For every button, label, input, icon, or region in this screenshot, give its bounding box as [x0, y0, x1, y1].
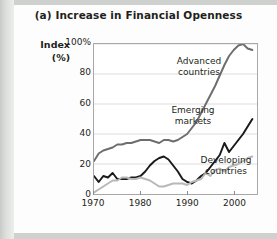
- x-axis-tickmark: [187, 191, 188, 195]
- y-axis-tick: 60: [51, 98, 91, 108]
- y-axis-tick: 100%: [51, 37, 91, 47]
- annotation-developing-line1: Developing: [193, 155, 259, 166]
- annotation-developing: Developing countries: [193, 155, 259, 176]
- annotation-advanced-line2: countries: [168, 67, 230, 78]
- y-axis-tick: 20: [51, 159, 91, 169]
- annotation-advanced: Advanced countries: [168, 56, 230, 77]
- frame-bottom-band: [0, 233, 277, 239]
- annotation-emerging-line2: markets: [162, 116, 224, 127]
- y-axis-tick: 80: [51, 67, 91, 77]
- x-axis-tickmark: [234, 191, 235, 195]
- annotation-emerging: Emerging markets: [162, 105, 224, 126]
- x-axis-tick: 1980: [129, 198, 152, 208]
- annotation-developing-line2: countries: [193, 166, 259, 177]
- y-axis-tick: 40: [51, 128, 91, 138]
- x-axis-tickmark: [93, 191, 94, 195]
- annotation-emerging-line1: Emerging: [162, 105, 224, 116]
- x-axis-tick-labels: 1970198019902000: [0, 198, 277, 214]
- x-axis-tick: 1970: [82, 198, 105, 208]
- figure-container: (a) Increase in Financial Openness Index…: [0, 0, 277, 239]
- x-axis-tickmark: [140, 191, 141, 195]
- annotation-advanced-line1: Advanced: [168, 56, 230, 67]
- x-axis-tick: 1990: [176, 198, 199, 208]
- x-axis-tick: 2000: [223, 198, 246, 208]
